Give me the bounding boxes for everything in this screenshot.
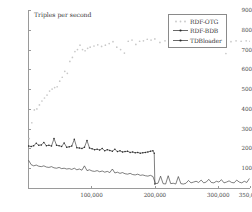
legend-label: RDF-BDB (190, 27, 218, 34)
series-rdf-bdb (28, 138, 156, 185)
chart-container: Triples per second 100200300400500600700… (0, 0, 252, 212)
legend-swatch-icon (172, 36, 189, 45)
legend-item-rdf-otg[interactable]: RDF-OTG (172, 17, 222, 27)
series-rdf-otg (28, 36, 250, 139)
legend-item-tdbloader[interactable]: TDBloader (172, 36, 222, 46)
legend-label: TDBloader (190, 37, 222, 44)
x-tick-mark (250, 186, 251, 189)
chart-legend: RDF-OTGRDF-BDBTDBloader (168, 14, 227, 49)
x-axis-line (28, 188, 250, 189)
legend-item-rdf-bdb[interactable]: RDF-BDB (172, 26, 222, 36)
x-tick-label: 300,000 (202, 192, 234, 198)
legend-swatch-icon (172, 17, 189, 26)
series-tdbloader (29, 160, 250, 184)
x-tick-label: 100,000 (75, 192, 107, 198)
x-tick-label: 200,000 (139, 192, 171, 198)
x-tick-label: 350,000 (234, 192, 252, 198)
legend-swatch-icon (172, 26, 189, 35)
legend-label: RDF-OTG (190, 18, 218, 25)
